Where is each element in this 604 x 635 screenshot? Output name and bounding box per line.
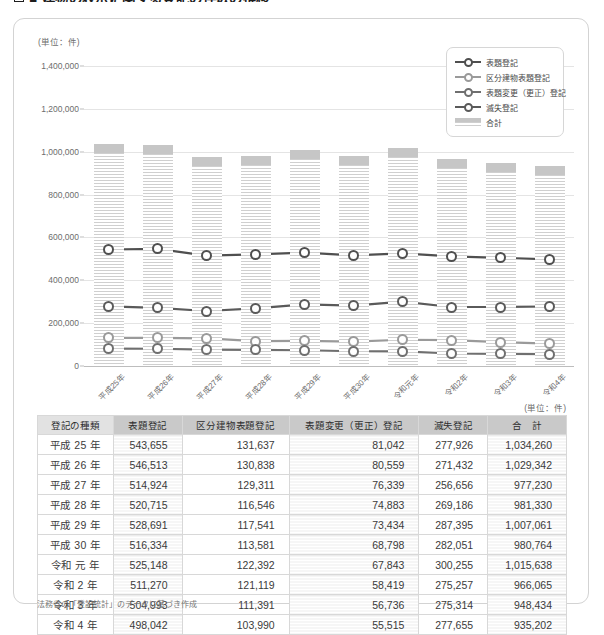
chart-data-point [544,254,555,265]
chart-line-滅失登記 [109,302,550,311]
chart-y-tick-label: 1,200,000 [41,104,79,114]
table-cell-year: 令和 2 年 [38,575,114,595]
chart-x-tick-label: 平成26年 [144,371,175,402]
table-cell-value: 546,513 [113,455,182,475]
chart-line-表題変更（更正）登記 [109,349,550,354]
chart-x-tick-label: 令和元年 [390,371,420,401]
legend-item: 区分建物表題登記 [455,70,555,84]
table-cell-year: 平成 26 年 [38,455,114,475]
table-cell-value: 76,339 [289,475,419,495]
table-unit-label: (単位：件) [524,401,566,413]
table-row: 平成 30 年516,334113,58168,798282,051980,76… [38,535,567,555]
chart-unit-label: (単位：件) [38,35,80,47]
chart-data-point [544,301,555,312]
chart-bar [339,156,369,366]
legend-item: 滅失登記 [455,100,555,114]
table-column-header: 区分建物表題登記 [182,416,289,435]
table-cell-year: 平成 29 年 [38,515,114,535]
legend-label: 表題登記 [486,57,518,68]
chart-legend: 表題登記区分建物表題登記表題変更（更正）登記滅失登記合計 [446,47,564,137]
table-column-header: 登記の種類 [38,416,114,435]
table-cell-value: 498,042 [113,615,182,635]
legend-marker [464,103,473,112]
table-cell-value: 256,656 [419,475,488,495]
chart-y-tick-label: 1,400,000 [41,61,79,71]
chart-bar-cap [192,157,222,166]
table-cell-value: 1,034,260 [488,435,567,455]
chart-bar [241,156,271,366]
chart-bar-cap [437,159,467,168]
chart-line-区分建物表題登記 [109,338,550,344]
chart-data-point [397,248,408,259]
legend-label: 滅失登記 [486,102,518,113]
chart-data-point [446,302,457,313]
chart-data-point [201,306,212,317]
table-column-header: 合 計 [488,416,567,435]
table-cell-year: 平成 30 年 [38,535,114,555]
chart-x-tick-label: 平成28年 [242,371,273,402]
table-row: 令和 2 年511,270121,11958,419275,257966,065 [38,575,567,595]
table-cell-value: 543,655 [113,435,182,455]
chart-x-tick-label: 平成25年 [95,371,126,402]
table-cell-value: 277,926 [419,435,488,455]
chart-data-point [348,250,359,261]
chart-bar-cap [143,145,173,154]
table-row: 令和 元 年525,148122,39267,843300,2551,015,6… [38,555,567,575]
table-cell-value: 511,270 [113,575,182,595]
table-row: 平成 28 年520,715116,54674,883269,186981,33… [38,495,567,515]
legend-swatch [455,86,481,98]
chart-bar [486,163,516,366]
chart-y-tick-label: 1,000,000 [41,147,79,157]
chart-data-point [348,300,359,311]
table-row: 平成 25 年543,655131,63781,042277,9261,034,… [38,435,567,455]
table-cell-year: 平成 27 年 [38,475,114,495]
table-cell-value: 282,051 [419,535,488,555]
legend-marker [464,58,473,67]
table-cell-value: 58,419 [289,575,419,595]
chart-data-point [446,335,457,346]
chart-gridline [84,366,574,367]
table-cell-year: 平成 28 年 [38,495,114,515]
chart-y-tick-label: 200,000 [48,318,79,328]
chart-container: (単位：件) 0200,000400,000600,000800,0001,00… [14,19,590,394]
legend-item: 合計 [455,115,555,129]
table-cell-value: 129,311 [182,475,289,495]
table-cell-value: 516,334 [113,535,182,555]
table-cell-value: 277,655 [419,615,488,635]
table-cell-value: 130,838 [182,455,289,475]
chart-x-tick-label: 平成29年 [291,371,322,402]
table-cell-value: 131,637 [182,435,289,455]
table-cell-value: 117,541 [182,515,289,535]
chart-data-point [250,249,261,260]
chart-y-tickmark [80,194,84,195]
table-cell-value: 275,257 [419,575,488,595]
chart-data-point [495,302,506,313]
chart-data-point [299,299,310,310]
table-cell-value: 966,065 [488,575,567,595]
chart-bar-cap [486,163,516,172]
legend-swatch [455,101,481,113]
chart-y-tickmark [80,280,84,281]
table-cell-value: 977,230 [488,475,567,495]
chart-y-tickmark [80,323,84,324]
table-cell-value: 68,798 [289,535,419,555]
table-cell-value: 275,314 [419,595,488,615]
chart-y-tick-label: 600,000 [48,232,79,242]
chart-y-tickmark [80,66,84,67]
table-cell-value: 271,432 [419,455,488,475]
legend-item: 表題登記 [455,55,555,69]
chart-data-point [446,348,457,359]
chart-y-tickmark [80,151,84,152]
content-card: (単位：件) 0200,000400,000600,000800,0001,00… [13,18,589,604]
legend-marker [464,88,473,97]
chart-data-point [201,333,212,344]
chart-bar [290,150,320,366]
table-cell-value: 74,883 [289,495,419,515]
table-row: 平成 27 年514,924129,31176,339256,656977,23… [38,475,567,495]
chart-line-表題登記 [109,249,550,259]
table-cell-value: 73,434 [289,515,419,535]
chart-x-tick-label: 平成27年 [193,371,224,402]
chart-data-point [103,301,114,312]
table-cell-value: 935,202 [488,615,567,635]
table-cell-value: 528,691 [113,515,182,535]
